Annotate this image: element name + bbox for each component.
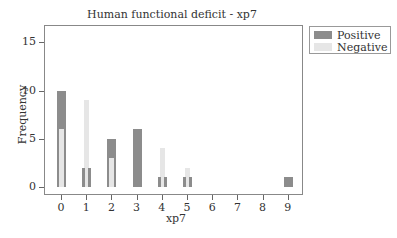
legend-swatch-negative [314,43,332,51]
bar-positive [164,177,167,187]
x-tick-mark [162,195,163,200]
bar-negative [59,129,64,187]
y-tick-mark [39,139,44,140]
legend-item-positive: Positive [314,29,380,41]
bar-positive [158,177,161,187]
x-tick-mark [111,195,112,200]
y-tick-label: 0 [16,180,36,193]
bar-positive [284,177,293,187]
x-tick-label: 6 [204,201,220,214]
x-tick-label: 0 [53,201,69,214]
bar-positive [82,168,85,187]
x-tick-label: 7 [229,201,245,214]
x-tick-mark [187,195,188,200]
x-tick-mark [61,195,62,200]
x-tick-label: 9 [280,201,296,214]
x-tick-label: 8 [255,201,271,214]
y-tick-mark [39,91,44,92]
bar-positive [189,177,192,187]
bar-positive [133,129,142,187]
x-tick-mark [263,195,264,200]
x-tick-mark [137,195,138,200]
bar-positive [88,168,91,187]
bar-positive [183,177,186,187]
x-tick-mark [288,195,289,200]
x-tick-label: 1 [78,201,94,214]
y-tick-mark [39,42,44,43]
y-tick-label: 15 [16,35,36,48]
chart-title: Human functional deficit - xp7 [0,8,300,21]
x-tick-mark [212,195,213,200]
x-tick-mark [86,195,87,200]
legend-swatch-positive [314,31,332,39]
legend-item-negative: Negative [314,41,387,53]
legend: Positive Negative [309,26,391,54]
legend-label-negative: Negative [337,41,387,54]
y-tick-mark [39,187,44,188]
x-tick-label: 2 [103,201,119,214]
x-tick-mark [237,195,238,200]
y-tick-label: 5 [16,132,36,145]
bar-negative [109,158,114,187]
x-tick-label: 5 [179,201,195,214]
x-tick-label: 3 [129,201,145,214]
y-tick-label: 10 [16,84,36,97]
x-tick-label: 4 [154,201,170,214]
